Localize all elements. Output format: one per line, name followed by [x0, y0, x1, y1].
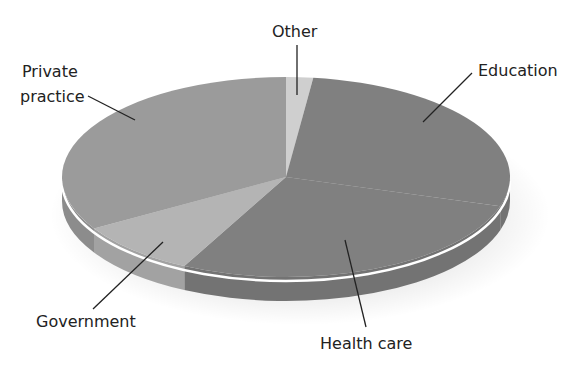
- label-other: Other: [272, 22, 317, 42]
- label-private-practice-line1: Private: [22, 62, 78, 82]
- label-private-practice-line2: practice: [20, 87, 85, 107]
- label-government: Government: [36, 312, 136, 332]
- pie-top-faces: [62, 77, 510, 277]
- label-education: Education: [478, 61, 558, 81]
- label-health-care: Health care: [320, 334, 412, 354]
